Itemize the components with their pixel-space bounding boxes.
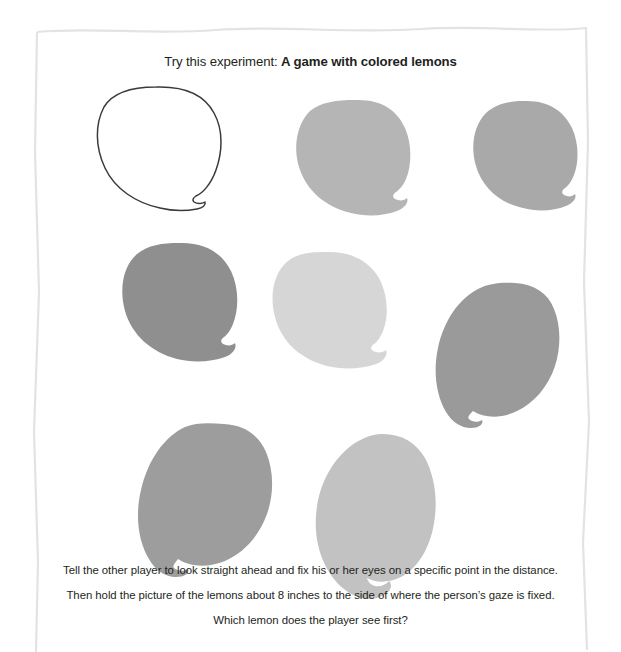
instruction-line-1: Tell the other player to look straight a… <box>0 558 621 583</box>
instruction-line-3: Which lemon does the player see first? <box>0 608 621 633</box>
title-lead: Try this experiment: <box>164 54 281 69</box>
title-emphasis: A game with colored lemons <box>281 54 457 69</box>
instructions-block: Tell the other player to look straight a… <box>0 558 621 633</box>
page-title: Try this experiment: A game with colored… <box>0 54 621 69</box>
instruction-line-2: Then hold the picture of the lemons abou… <box>0 583 621 608</box>
